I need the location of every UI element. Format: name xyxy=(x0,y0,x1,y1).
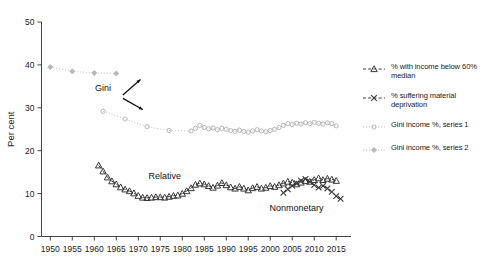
y-axis-title: Per cent xyxy=(5,111,16,147)
svg-text:Relative: Relative xyxy=(148,171,181,181)
svg-text:20: 20 xyxy=(25,146,35,156)
annotation-group: GiniRelativeNonmonetary xyxy=(95,79,324,212)
chart-container: 01020304050 1950195519601965197019751980… xyxy=(0,0,491,265)
svg-text:2015: 2015 xyxy=(327,244,346,254)
svg-text:40: 40 xyxy=(25,60,35,70)
svg-text:50: 50 xyxy=(25,17,35,27)
diamond-marker-icon xyxy=(362,144,386,156)
svg-text:1980: 1980 xyxy=(173,244,192,254)
svg-text:1995: 1995 xyxy=(239,244,258,254)
y-tick-labels: 01020304050 xyxy=(25,17,35,242)
svg-text:Nonmonetary: Nonmonetary xyxy=(270,203,325,213)
circle-marker-icon xyxy=(362,121,386,133)
svg-text:1970: 1970 xyxy=(129,244,148,254)
legend-item-label: Gini income %, series 2 xyxy=(391,143,468,152)
legend-item-label: Gini income %, series 1 xyxy=(391,120,468,129)
svg-text:30: 30 xyxy=(25,103,35,113)
svg-text:1965: 1965 xyxy=(107,244,126,254)
svg-text:1955: 1955 xyxy=(63,244,82,254)
svg-text:Gini: Gini xyxy=(95,83,111,93)
legend-item-label: % with income below 60% median xyxy=(391,62,490,81)
triangle-marker-icon xyxy=(362,63,386,75)
data-series-group xyxy=(48,64,344,201)
svg-text:1985: 1985 xyxy=(195,244,214,254)
legend-item[interactable]: % suffering material deprivation xyxy=(362,91,490,110)
legend-item-label: % suffering material deprivation xyxy=(391,91,490,110)
x-tick-labels: 1950195519601965197019751980198519901995… xyxy=(41,244,346,254)
svg-text:1990: 1990 xyxy=(217,244,236,254)
svg-text:1960: 1960 xyxy=(85,244,104,254)
legend-item[interactable]: % with income below 60% median xyxy=(362,62,490,81)
svg-text:2000: 2000 xyxy=(261,244,280,254)
svg-text:2005: 2005 xyxy=(283,244,302,254)
legend-item[interactable]: Gini income %, series 2 xyxy=(362,143,490,156)
svg-text:1975: 1975 xyxy=(151,244,170,254)
x-marker-icon xyxy=(362,92,386,104)
legend-item[interactable]: Gini income %, series 1 xyxy=(362,120,490,133)
svg-text:Per cent: Per cent xyxy=(5,111,16,147)
svg-text:2010: 2010 xyxy=(305,244,324,254)
svg-text:0: 0 xyxy=(30,232,35,242)
svg-text:10: 10 xyxy=(25,189,35,199)
chart-legend: % with income below 60% median % sufferi… xyxy=(362,62,490,166)
svg-text:1950: 1950 xyxy=(41,244,60,254)
